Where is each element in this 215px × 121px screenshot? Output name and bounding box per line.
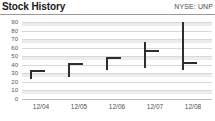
stock-history-widget: Stock History NYSE: UNP 9080706050403020… — [0, 0, 215, 121]
y-axis-tick-label: 30 — [2, 70, 18, 76]
y-axis-tick-label: 70 — [2, 36, 18, 42]
x-axis-tick-label: 12/05 — [64, 103, 94, 110]
y-axis-tick-label: 10 — [2, 87, 18, 93]
x-axis-tick-label: 12/08 — [178, 103, 208, 110]
y-axis-tick-label: 50 — [2, 53, 18, 59]
y-axis-tick-label: 40 — [2, 62, 18, 68]
x-axis-tick-label: 12/06 — [102, 103, 132, 110]
x-axis-tick-label: 12/07 — [140, 103, 170, 110]
y-axis-tick-label: 80 — [2, 28, 18, 34]
x-axis-labels: 12/0412/0512/0612/0712/08 — [22, 103, 212, 115]
y-axis-tick-label: 20 — [2, 79, 18, 85]
y-axis-tick-label: 90 — [2, 19, 18, 25]
y-axis-tick-label: 0 — [2, 96, 18, 102]
x-axis-tick-label: 12/04 — [26, 103, 56, 110]
y-axis-tick-label: 60 — [2, 45, 18, 51]
